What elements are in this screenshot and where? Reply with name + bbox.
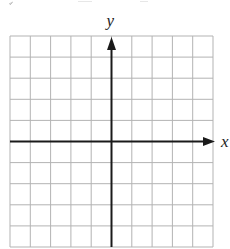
x-axis-label: x — [220, 132, 229, 151]
coordinate-plane: x y — [0, 0, 230, 249]
cropped-heading-fragment — [9, 1, 148, 5]
y-axis-arrowhead-icon — [107, 37, 116, 50]
coordinate-grid-figure: x y — [0, 0, 230, 249]
y-axis-label: y — [105, 11, 115, 30]
axes — [10, 37, 215, 247]
